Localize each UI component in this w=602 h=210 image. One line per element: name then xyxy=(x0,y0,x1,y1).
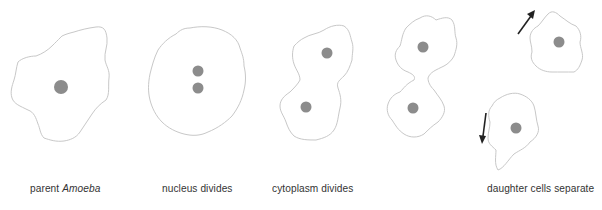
stage-pinching xyxy=(387,16,457,137)
stage-daughter-cells xyxy=(479,10,583,170)
nucleus xyxy=(554,37,565,48)
nucleus-top xyxy=(322,48,333,59)
nucleus-bottom xyxy=(408,103,419,114)
arrow-down-icon xyxy=(479,113,486,144)
label-parent-amoeba: parent Amoeba xyxy=(30,182,100,194)
label-italic-species: Amoeba xyxy=(62,182,100,194)
label-text: parent xyxy=(30,182,62,194)
stage-parent-amoeba xyxy=(11,27,109,141)
stage-nucleus-divides xyxy=(149,27,246,136)
nucleus-bottom xyxy=(301,102,312,113)
nucleus xyxy=(511,123,522,134)
label-nucleus-divides: nucleus divides xyxy=(162,182,233,194)
label-daughter-cells-separate: daughter cells separate xyxy=(487,182,594,194)
stage-cytoplasm-divides xyxy=(280,25,353,140)
nucleus xyxy=(54,80,68,94)
nucleus-bottom xyxy=(193,83,204,94)
pinching-cell-outline xyxy=(387,16,457,137)
cytoplasm-dividing-outline xyxy=(280,25,353,140)
label-cytoplasm-divides: cytoplasm divides xyxy=(272,182,353,194)
amoeba-fission-diagram xyxy=(0,0,602,210)
nucleus-top xyxy=(418,42,429,53)
dividing-cell-outline xyxy=(149,27,246,136)
nucleus-top xyxy=(193,66,204,77)
